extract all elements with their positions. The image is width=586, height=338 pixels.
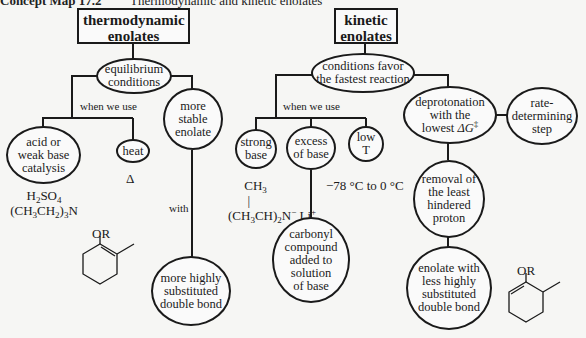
- thermodynamic-enolates-box: thermodynamic enolates: [77, 8, 190, 44]
- acid-base-examples: H2SO4(CH3CH2)3N: [8, 188, 80, 218]
- more-stable-enolate-node: more stable enolate: [163, 88, 223, 150]
- fastest-reaction-node: conditions favor the fastest reaction: [311, 53, 415, 93]
- low-t-node: low T: [348, 126, 384, 162]
- more-substituted-node: more highly substituted double bond: [151, 256, 231, 326]
- heat-node: heat: [116, 139, 150, 163]
- less-substituted-node: enolate with less highly substituted dou…: [406, 246, 492, 330]
- heat-symbol: Δ: [126, 171, 134, 186]
- deprotonation-text: deprotonationwith thelowest ΔG‡: [415, 96, 484, 135]
- thermo-when-label: when we use: [80, 100, 137, 112]
- thermo-or-label: OR: [92, 226, 110, 241]
- kinetic-enolate-structure: [509, 273, 560, 322]
- low-temp-range: −78 °C to 0 °C: [326, 178, 404, 193]
- kinetic-enolates-box: kinetic enolates: [334, 8, 398, 44]
- with-label: with: [169, 202, 189, 214]
- carbonyl-added-node: carbonyl compound added to solution of b…: [272, 217, 350, 303]
- excess-base-node: excess of base: [286, 126, 336, 170]
- deprotonation-node: deprotonationwith thelowest ΔG‡: [403, 86, 497, 144]
- kinetic-when-label: when we use: [283, 100, 340, 112]
- lda-formula: CH3 |(CH3CH)2N− Li+: [228, 178, 316, 223]
- least-hindered-node: removal of the least hindered proton: [413, 160, 485, 238]
- kinetic-or-label: OR: [517, 263, 535, 278]
- rate-determining-node: rate- determining step: [506, 87, 578, 145]
- acid-weak-base-node: acid or weak base catalysis: [6, 126, 81, 184]
- equilibrium-conditions-node: equilibrium conditions: [96, 58, 172, 94]
- thermo-enolate-structure: [83, 236, 134, 284]
- strong-base-node: strong base: [235, 129, 277, 169]
